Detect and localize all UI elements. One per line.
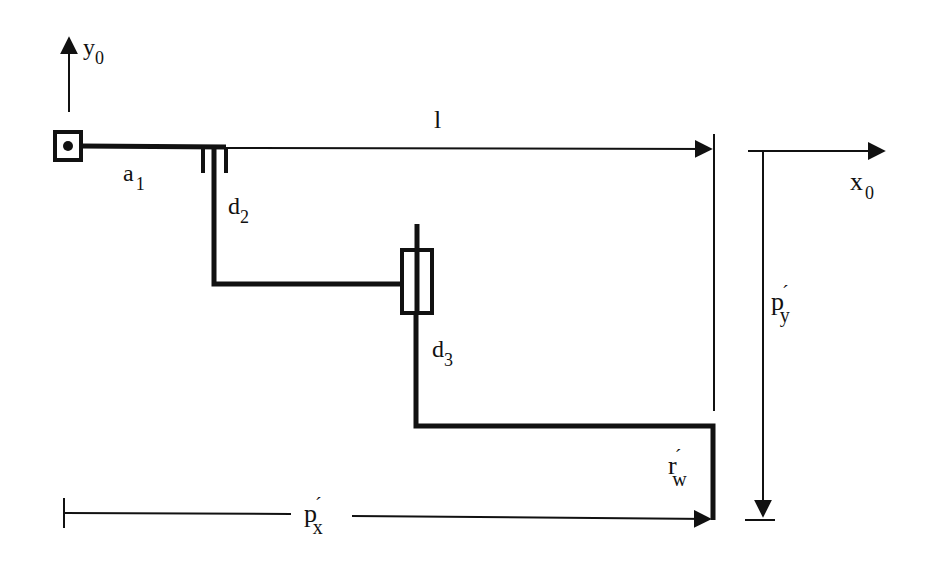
base-revolute-joint-icon	[55, 132, 81, 160]
label-a1: a1	[123, 160, 145, 194]
label-d3: d3	[432, 336, 453, 370]
kinematic-diagram: y0 a1 d2 l d3 x0 p´y r´w p´x	[0, 0, 927, 571]
label-l: l	[434, 105, 441, 134]
label-px: p´x	[304, 494, 323, 538]
label-x0: x0	[850, 167, 874, 203]
label-y0: y0	[83, 34, 104, 68]
label-d2: d2	[228, 193, 249, 227]
prismatic-joint-d3-icon	[402, 224, 432, 314]
label-py: p´y	[771, 282, 790, 327]
dimension-py	[745, 152, 775, 520]
label-rw: r´w	[668, 446, 687, 490]
dimension-l	[226, 134, 714, 411]
link-d3	[416, 314, 713, 520]
dimension-px	[64, 498, 710, 528]
link-a1	[81, 146, 226, 147]
